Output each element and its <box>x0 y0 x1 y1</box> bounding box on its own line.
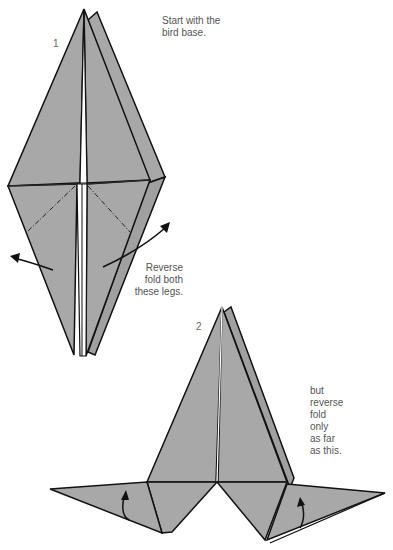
body-right <box>218 307 287 482</box>
left-leg-2 <box>50 482 162 533</box>
step-1-number: 1 <box>53 38 59 49</box>
origami-diagram <box>0 0 393 550</box>
step-2-number: 2 <box>196 321 202 332</box>
body-left <box>147 307 222 482</box>
step-2-instruction: but reverse fold only as far as this. <box>310 385 343 457</box>
right-leg-2 <box>267 484 385 540</box>
left-upper-flap <box>8 9 84 186</box>
step-1-bird-base <box>8 9 170 356</box>
left-leg <box>8 184 77 355</box>
step-1-instruction: Reverse fold both these legs. <box>133 262 183 298</box>
right-upper-flap <box>84 9 150 183</box>
step-1-caption: Start with the bird base. <box>162 15 220 39</box>
